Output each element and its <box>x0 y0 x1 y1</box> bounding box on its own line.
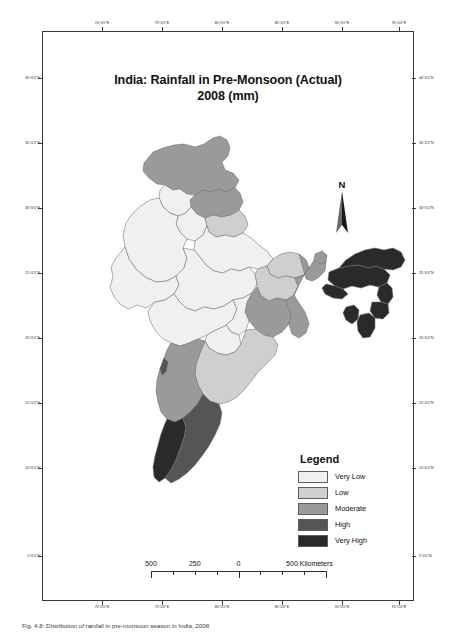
graticule-tick-lat-left-2 <box>38 208 42 209</box>
scale-tick-minor-1 <box>173 571 174 575</box>
north-arrow-icon <box>334 191 350 235</box>
legend: Legend Very Low Low Moderate High <box>298 453 416 550</box>
scale-bar-graphic <box>151 571 326 578</box>
graticule-tick-lat-right-4 <box>412 338 416 339</box>
region-tripura <box>343 305 359 324</box>
legend-label-very-high: Very High <box>335 536 367 545</box>
graticule-tick-lat-left-5 <box>38 403 42 404</box>
graticule-tick-lat-left-7 <box>38 556 42 557</box>
scale-label-500-left: 500 <box>145 560 157 567</box>
graticule-tick-lat-left-3 <box>38 273 42 274</box>
graticule-tick-lon-top-2 <box>222 27 223 31</box>
graticule-tick-lat-left-6 <box>38 468 42 469</box>
graticule-label-lat-left-7: 5°0'0"N <box>12 554 40 558</box>
graticule-tick-lon-bottom-2 <box>222 601 223 605</box>
graticule-label-lon-bottom-5: 95°0'0"E <box>392 605 407 609</box>
scale-tick-minor-3 <box>217 571 218 575</box>
graticule-tick-lat-right-6 <box>412 468 416 469</box>
graticule-tick-lat-right-7 <box>412 556 416 557</box>
scale-label-250: 250 <box>189 560 201 567</box>
legend-label-moderate: Moderate <box>335 504 366 513</box>
graticule-label-lon-bottom-1: 75°0'0"E <box>155 605 170 609</box>
graticule-tick-lon-bottom-4 <box>342 601 343 605</box>
graticule-label-lon-top-0: 70°0'0"E <box>95 21 110 25</box>
scale-tick-minor-7 <box>304 571 305 575</box>
region-mizoram <box>357 313 375 338</box>
graticule-label-lat-left-2: 30°0'0"N <box>12 206 40 210</box>
graticule-tick-lat-left-0 <box>38 78 42 79</box>
graticule-label-lat-left-1: 35°0'0"N <box>12 141 40 145</box>
graticule-label-lat-right-2: 30°0'0"N <box>419 206 434 210</box>
scale-label-0: 0 <box>237 560 241 567</box>
graticule-label-lat-left-4: 20°0'0"N <box>12 336 40 340</box>
scale-label-500-kilometers: 500 Kilometers <box>286 560 333 567</box>
north-arrow-label: N <box>329 179 355 190</box>
graticule-tick-lat-right-5 <box>412 403 416 404</box>
map-canvas: India: Rainfall in Pre-Monsoon (Actual) … <box>43 32 413 600</box>
scale-tick-minor-2 <box>195 571 196 575</box>
legend-item-very-low: Very Low <box>298 470 416 484</box>
graticule-label-lon-bottom-2: 80°0'0"E <box>215 605 230 609</box>
graticule-label-lon-bottom-4: 90°0'0"E <box>335 605 350 609</box>
legend-swatch-low <box>298 487 328 499</box>
graticule-label-lon-top-2: 80°0'0"E <box>215 21 230 25</box>
legend-label-very-low: Very Low <box>335 472 365 481</box>
legend-item-high: High <box>298 518 416 532</box>
graticule-label-lat-right-0: 40°0'0"N <box>419 76 434 80</box>
legend-swatch-very-high <box>298 535 328 547</box>
graticule-label-lat-right-1: 35°0'0"N <box>419 141 434 145</box>
graticule-label-lat-right-7: 5°0'0"N <box>419 554 432 558</box>
graticule-tick-lon-top-5 <box>399 27 400 31</box>
graticule-label-lon-top-3: 85°0'0"E <box>275 21 290 25</box>
figure-caption: Fig. 4.8: Distribution of rainfall in pr… <box>22 622 452 634</box>
graticule-tick-lon-bottom-0 <box>102 601 103 605</box>
legend-label-low: Low <box>335 488 349 497</box>
map-figure: India: Rainfall in Pre-Monsoon (Actual) … <box>0 0 469 636</box>
legend-swatch-high <box>298 519 328 531</box>
graticule-tick-lon-top-4 <box>342 27 343 31</box>
graticule-label-lon-bottom-3: 85°0'0"E <box>275 605 290 609</box>
scale-tick-minor-6 <box>282 571 283 575</box>
legend-swatch-very-low <box>298 471 328 483</box>
graticule-label-lat-right-4: 20°0'0"N <box>419 336 434 340</box>
legend-heading: Legend <box>300 453 416 465</box>
scale-bar: 500 250 0 500 Kilometers <box>151 560 326 578</box>
scale-tick-major-8 <box>326 571 327 578</box>
graticule-label-lon-top-4: 90°0'0"E <box>335 21 350 25</box>
graticule-tick-lon-top-1 <box>162 27 163 31</box>
legend-label-high: High <box>335 520 350 529</box>
graticule-label-lat-left-5: 15°0'0"N <box>12 401 40 405</box>
graticule-tick-lat-right-1 <box>412 143 416 144</box>
map-title: India: Rainfall in Pre-Monsoon (Actual) … <box>43 72 413 104</box>
graticule-label-lat-left-6: 10°0'0"N <box>12 466 40 470</box>
graticule-tick-lon-top-3 <box>282 27 283 31</box>
graticule-label-lat-right-3: 25°0'0"N <box>419 271 434 275</box>
graticule-label-lat-left-3: 25°0'0"N <box>12 271 40 275</box>
north-arrow: N <box>329 179 355 239</box>
legend-item-moderate: Moderate <box>298 502 416 516</box>
graticule-tick-lon-bottom-1 <box>162 601 163 605</box>
graticule-label-lat-left-0: 40°0'0"N <box>12 76 40 80</box>
graticule-tick-lon-top-0 <box>102 27 103 31</box>
graticule-label-lat-right-5: 15°0'0"N <box>419 401 434 405</box>
scale-tick-major-0 <box>151 571 152 578</box>
scale-tick-major-4 <box>239 571 240 578</box>
map-neatline: India: Rainfall in Pre-Monsoon (Actual) … <box>42 31 414 601</box>
graticule-label-lon-top-1: 75°0'0"E <box>155 21 170 25</box>
legend-item-very-high: Very High <box>298 534 416 548</box>
region-jammu-kashmir <box>143 136 239 195</box>
map-title-line-1: India: Rainfall in Pre-Monsoon (Actual) <box>43 72 413 88</box>
graticule-tick-lat-right-0 <box>412 78 416 79</box>
legend-swatch-moderate <box>298 503 328 515</box>
graticule-tick-lat-left-1 <box>38 143 42 144</box>
graticule-label-lon-bottom-0: 70°0'0"E <box>95 605 110 609</box>
graticule-tick-lat-right-3 <box>412 273 416 274</box>
graticule-tick-lon-bottom-5 <box>399 601 400 605</box>
graticule-tick-lat-left-4 <box>38 338 42 339</box>
map-title-line-2: 2008 (mm) <box>43 88 413 104</box>
scale-bar-labels: 500 250 0 500 Kilometers <box>151 560 326 570</box>
graticule-tick-lon-bottom-3 <box>282 601 283 605</box>
scale-tick-minor-5 <box>260 571 261 575</box>
legend-item-low: Low <box>298 486 416 500</box>
region-assam <box>328 265 390 289</box>
